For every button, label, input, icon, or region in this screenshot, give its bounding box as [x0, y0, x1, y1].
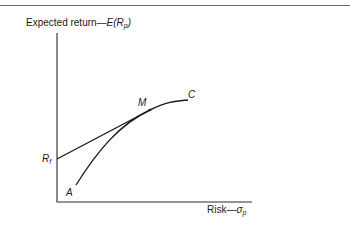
risk-free-label: Rf	[42, 153, 52, 165]
tangency-point-m	[149, 109, 152, 112]
point-label-c: C	[188, 89, 196, 100]
y-axis-label: Expected return—E(Rp)	[26, 17, 131, 30]
x-axis-label: Risk—σp	[207, 204, 246, 217]
axes	[57, 33, 252, 202]
point-label-a: A	[65, 187, 73, 198]
point-label-m: M	[138, 97, 147, 108]
efficient-frontier-curve	[76, 100, 188, 185]
portfolio-diagram: Expected return—E(Rp) Risk—σp Rf A M C	[0, 0, 350, 232]
